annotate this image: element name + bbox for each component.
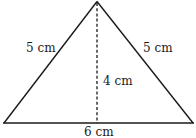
left-side-line <box>4 2 97 124</box>
triangle-figure <box>0 0 196 138</box>
right-side-label: 5 cm <box>143 42 173 54</box>
height-label: 4 cm <box>103 75 133 87</box>
triangle-diagram: 5 cm 5 cm 4 cm 6 cm <box>0 0 196 138</box>
left-side-label: 5 cm <box>26 42 56 54</box>
base-label: 6 cm <box>84 126 114 138</box>
right-side-line <box>97 2 193 124</box>
